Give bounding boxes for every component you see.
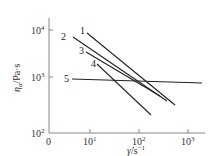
viscosity-chart: 104 103 102 0 101 102 103 ηa/Pa·s γ̇/s−1… (0, 0, 216, 156)
y-tick-label-1e3: 103 (31, 71, 45, 83)
x-axis-title: γ̇/s−1 (127, 144, 146, 156)
x-tick-label-1e1: 101 (83, 135, 97, 147)
curve-label-4: 4 (91, 58, 96, 69)
curve-label-1: 1 (80, 25, 85, 36)
curve-3 (86, 52, 160, 96)
x-tick-label-0: 0 (46, 136, 51, 147)
y-tick-label-1e2: 102 (31, 127, 45, 139)
curve-1 (87, 33, 175, 105)
curve-label-2: 2 (61, 31, 66, 42)
y-tick-label-1e4: 104 (31, 24, 45, 36)
y-axis-title: ηa/Pa·s (11, 63, 24, 92)
curve-label-3: 3 (79, 45, 84, 56)
curve-label-5: 5 (64, 73, 69, 84)
x-tick-label-1e3: 103 (181, 135, 195, 147)
